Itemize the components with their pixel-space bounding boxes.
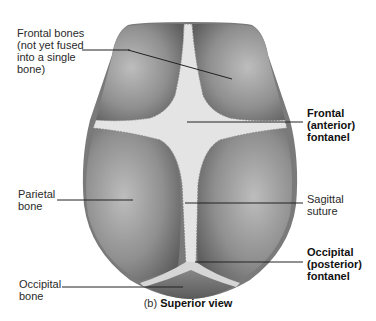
right-parietal-bone [197,128,292,281]
caption-title: Superior view [160,297,232,309]
label-parietal-bone: Parietal bone [18,188,55,212]
label-line: Parietal [18,188,55,200]
label-line: bone) [17,63,84,75]
label-line: Occipital [19,278,61,290]
label-line: (not yet fused [17,39,84,51]
label-occipital-fontanel: Occipital (posterior) fontanel [307,246,362,282]
figure-caption: (b) Superior view [0,297,376,309]
label-line: Sagittal [307,193,344,205]
label-line: Frontal bones [17,27,84,39]
infant-skull-diagram: Frontal bones (not yet fused into a sing… [0,0,376,321]
label-line: bone [18,200,55,212]
label-line: Occipital [307,246,362,258]
label-line: suture [307,205,344,217]
label-line: fontanel [307,131,355,143]
label-line: (posterior) [307,258,362,270]
label-line: Frontal [307,107,355,119]
label-sagittal-suture: Sagittal suture [307,193,344,217]
label-line: into a single [17,51,84,63]
left-parietal-bone [86,128,181,281]
label-frontal-fontanel: Frontal (anterior) fontanel [307,107,355,143]
caption-prefix: (b) [144,297,157,309]
label-line: (anterior) [307,119,355,131]
label-line: fontanel [307,270,362,282]
label-frontal-bones: Frontal bones (not yet fused into a sing… [17,27,84,75]
